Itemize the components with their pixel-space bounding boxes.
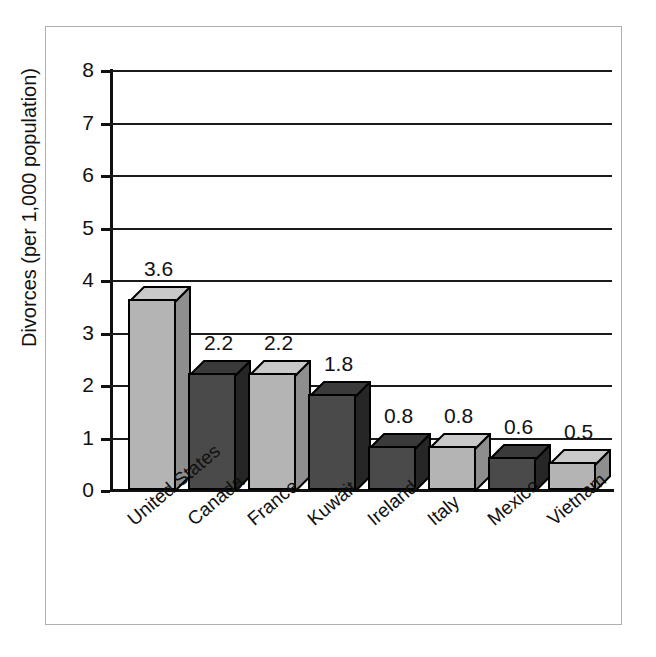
y-axis-tick [101, 123, 110, 126]
bar-front-face [248, 373, 296, 491]
bar [428, 433, 489, 490]
bar-value-label: 0.5 [548, 421, 609, 442]
y-axis-tick [101, 228, 110, 231]
y-axis-title: Divorces (per 1,000 population) [18, 0, 41, 423]
y-axis-tick-label: 8 [70, 59, 94, 80]
y-axis-tick [101, 175, 110, 178]
y-axis-tick-label: 6 [70, 164, 94, 185]
y-axis-tick-label: 3 [70, 322, 94, 343]
bar [308, 381, 369, 491]
y-axis-tick [101, 385, 110, 388]
bar-value-label: 0.8 [428, 405, 489, 426]
gridline [110, 123, 612, 125]
y-axis-tick-label: 4 [70, 269, 94, 290]
bar [128, 286, 189, 490]
gridline [110, 70, 612, 72]
bar-front-face [308, 394, 356, 491]
gridline [110, 280, 612, 282]
y-axis-tick [101, 438, 110, 441]
y-axis-tick-label: 0 [70, 479, 94, 500]
y-axis-tick [101, 490, 110, 493]
bar-value-label: 3.6 [128, 258, 189, 279]
y-axis-tick-label: 7 [70, 112, 94, 133]
bar-value-label: 0.6 [488, 416, 549, 437]
y-axis-tick-label: 2 [70, 374, 94, 395]
bar-front-face [128, 299, 176, 490]
chart-figure: 012345678 Divorces (per 1,000 population… [0, 0, 656, 657]
y-axis-tick-label: 5 [70, 217, 94, 238]
y-axis-tick-label: 1 [70, 427, 94, 448]
y-axis-tick [101, 280, 110, 283]
bar-value-label: 2.2 [248, 332, 309, 353]
bar-value-label: 1.8 [308, 353, 369, 374]
y-axis-tick [101, 70, 110, 73]
bar [248, 360, 309, 491]
gridline [110, 175, 612, 177]
gridline [110, 228, 612, 230]
bar-front-face [428, 446, 476, 490]
bar-value-label: 0.8 [368, 405, 429, 426]
y-axis-tick [101, 333, 110, 336]
bar [368, 433, 429, 490]
bar-value-label: 2.2 [188, 332, 249, 353]
